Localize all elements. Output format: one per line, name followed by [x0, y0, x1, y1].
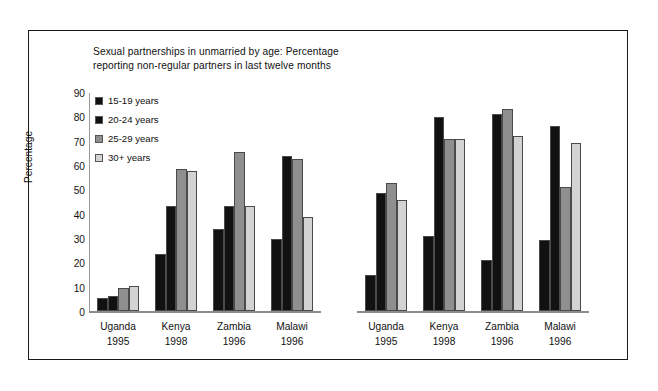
legend: 15-19 years20-24 years25-29 years30+ yea…	[95, 91, 205, 167]
bar[interactable]	[502, 109, 513, 311]
bar[interactable]	[155, 254, 166, 311]
y-axis-tick-label: 0	[63, 307, 85, 318]
bar-group	[263, 93, 321, 311]
x-axis-country-label: Kenya	[415, 319, 473, 334]
legend-item-label: 20-24 years	[108, 114, 159, 125]
bar[interactable]	[481, 260, 492, 311]
y-axis-tick-label: 40	[63, 209, 85, 220]
figure-frame: Sexual partnerships in unmarried by age:…	[28, 30, 628, 360]
legend-swatch-icon	[95, 135, 103, 143]
x-axis-country-label: Kenya	[147, 319, 205, 334]
y-axis-tick-label: 70	[63, 136, 85, 147]
bar[interactable]	[386, 183, 397, 311]
bar[interactable]	[129, 286, 140, 311]
x-axis-labels: Uganda1995Kenya1998Zambia1996Malawi1996U…	[89, 319, 589, 359]
bar[interactable]	[271, 239, 282, 312]
bar-group	[205, 93, 263, 311]
legend-item-label: 25-29 years	[108, 133, 159, 144]
y-axis-tick-label: 30	[63, 234, 85, 245]
x-axis-year-label: 1998	[147, 334, 205, 349]
chart-title: Sexual partnerships in unmarried by age:…	[93, 45, 523, 73]
y-axis-tick-label: 50	[63, 185, 85, 196]
bar[interactable]	[292, 159, 303, 311]
bar[interactable]	[118, 288, 129, 311]
bar[interactable]	[108, 296, 119, 311]
y-axis-tick-label: 60	[63, 161, 85, 172]
x-axis-tick-label: Kenya1998	[415, 319, 473, 349]
x-axis-year-label: 1995	[357, 334, 415, 349]
x-axis-country-label: Malawi	[263, 319, 321, 334]
x-axis-country-label: Malawi	[531, 319, 589, 334]
bar[interactable]	[224, 206, 235, 311]
x-axis-year-label: 1998	[415, 334, 473, 349]
bar[interactable]	[234, 152, 245, 311]
x-axis-tick-label: Malawi1996	[263, 319, 321, 349]
bar[interactable]	[423, 236, 434, 311]
y-axis-tick-label: 80	[63, 112, 85, 123]
x-axis-country-label: Zambia	[473, 319, 531, 334]
chart-title-line-1: Sexual partnerships in unmarried by age:…	[93, 45, 523, 59]
chart-title-line-2: reporting non-regular partners in last t…	[93, 59, 523, 73]
bar[interactable]	[245, 206, 256, 311]
bar-group	[415, 93, 473, 311]
bar[interactable]	[376, 193, 387, 311]
legend-item-label: 15-19 years	[108, 95, 159, 106]
x-axis-year-label: 1996	[205, 334, 263, 349]
x-axis-line-left-panel	[89, 311, 321, 313]
bar[interactable]	[513, 136, 524, 311]
legend-item[interactable]: 30+ years	[95, 148, 205, 167]
bar-group	[357, 93, 415, 311]
y-axis-tick-label: 90	[63, 88, 85, 99]
bar[interactable]	[455, 139, 466, 311]
x-axis-tick-label: Uganda1995	[89, 319, 147, 349]
legend-item[interactable]: 15-19 years	[95, 91, 205, 110]
x-axis-tick-label: Kenya1998	[147, 319, 205, 349]
x-axis-year-label: 1996	[473, 334, 531, 349]
bar[interactable]	[397, 200, 408, 311]
legend-item[interactable]: 25-29 years	[95, 129, 205, 148]
bar[interactable]	[365, 275, 376, 312]
bar[interactable]	[560, 187, 571, 311]
bar-group	[531, 93, 589, 311]
x-axis-year-label: 1996	[263, 334, 321, 349]
x-axis-tick-label: Malawi1996	[531, 319, 589, 349]
legend-item-label: 30+ years	[108, 152, 150, 163]
legend-swatch-icon	[95, 116, 103, 124]
x-axis-tick-label: Zambia1996	[205, 319, 263, 349]
x-axis-line-right-panel	[357, 311, 589, 313]
y-axis-tick-label: 10	[63, 282, 85, 293]
bar[interactable]	[492, 114, 503, 311]
x-axis-country-label: Uganda	[357, 319, 415, 334]
y-axis-label: Percentage	[23, 131, 34, 183]
bar[interactable]	[571, 143, 582, 311]
bar[interactable]	[303, 217, 314, 311]
bar[interactable]	[282, 156, 293, 311]
bar[interactable]	[213, 229, 224, 311]
bar[interactable]	[166, 206, 177, 311]
bar-group	[473, 93, 531, 311]
x-axis-year-label: 1996	[531, 334, 589, 349]
legend-swatch-icon	[95, 154, 103, 162]
bar[interactable]	[97, 298, 108, 311]
bar[interactable]	[434, 117, 445, 311]
x-axis-country-label: Zambia	[205, 319, 263, 334]
y-axis-tick-label: 20	[63, 258, 85, 269]
legend-item[interactable]: 20-24 years	[95, 110, 205, 129]
bar[interactable]	[187, 171, 198, 311]
legend-swatch-icon	[95, 97, 103, 105]
bar[interactable]	[176, 169, 187, 311]
x-axis-country-label: Uganda	[89, 319, 147, 334]
x-axis-tick-label: Zambia1996	[473, 319, 531, 349]
y-axis-ticks: 9080706050403020100	[59, 93, 85, 312]
bar[interactable]	[550, 126, 561, 311]
bar[interactable]	[444, 139, 455, 311]
x-axis-tick-label: Uganda1995	[357, 319, 415, 349]
bar[interactable]	[539, 240, 550, 311]
x-axis-year-label: 1995	[89, 334, 147, 349]
